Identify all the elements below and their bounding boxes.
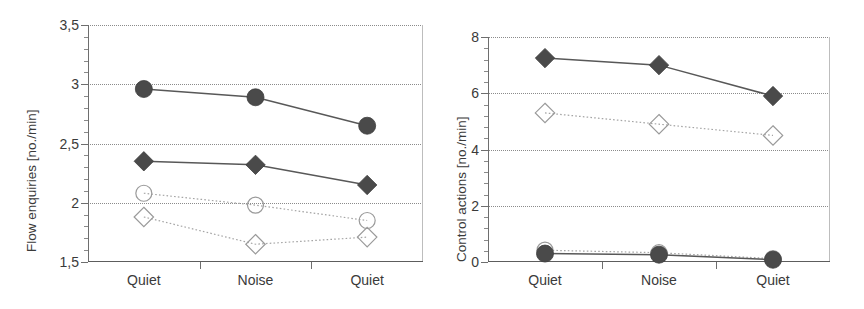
x-category-label: Quiet bbox=[528, 272, 561, 288]
y-tick bbox=[81, 25, 88, 26]
y-axis-title-control-actions: Control actions [no./min] bbox=[454, 116, 469, 262]
y-tick bbox=[81, 144, 88, 145]
x-tick bbox=[311, 262, 312, 269]
data-point-filled-diamond bbox=[649, 55, 668, 74]
y-tick bbox=[481, 150, 488, 151]
data-point-open-diamond bbox=[357, 227, 376, 246]
y-tick-label: 1,5 bbox=[60, 254, 79, 270]
chart-panel-control-actions: Control actions [no./min] 02468 QuietNoi… bbox=[432, 0, 864, 309]
data-point-filled-diamond bbox=[246, 155, 265, 174]
data-point-filled-circle bbox=[765, 251, 782, 268]
y-axis-title-flow-enquiries: Flow enquiries [no./min] bbox=[24, 109, 39, 252]
y-tick-label: 2 bbox=[471, 198, 479, 214]
y-tick-label: 2 bbox=[71, 195, 79, 211]
y-tick bbox=[481, 206, 488, 207]
y-tick bbox=[481, 262, 488, 263]
y-tick bbox=[81, 203, 88, 204]
data-point-filled-diamond bbox=[763, 86, 782, 105]
plot-area-control-actions: 02468 bbox=[488, 37, 830, 262]
x-tick bbox=[200, 262, 201, 269]
x-category-label: Noise bbox=[641, 272, 677, 288]
x-tick bbox=[602, 262, 603, 269]
series-layer-control-actions bbox=[488, 37, 830, 262]
y-tick-label: 0 bbox=[471, 254, 479, 270]
data-point-filled-circle bbox=[537, 245, 554, 262]
data-point-open-circle bbox=[136, 185, 152, 201]
data-point-filled-circle bbox=[247, 89, 264, 106]
data-point-open-diamond bbox=[763, 126, 782, 145]
data-point-open-diamond bbox=[134, 207, 153, 226]
y-tick bbox=[81, 84, 88, 85]
y-tick-label: 2,5 bbox=[60, 136, 79, 152]
y-tick bbox=[81, 262, 88, 263]
data-point-filled-diamond bbox=[357, 175, 376, 194]
data-point-filled-diamond bbox=[535, 48, 554, 67]
data-point-open-diamond bbox=[246, 235, 265, 254]
x-category-label: Quiet bbox=[127, 272, 160, 288]
y-tick bbox=[481, 93, 488, 94]
data-point-open-circle bbox=[359, 213, 375, 229]
x-category-label: Quiet bbox=[756, 272, 789, 288]
x-category-label: Quiet bbox=[350, 272, 383, 288]
y-tick-label: 6 bbox=[471, 85, 479, 101]
y-tick-label: 3 bbox=[71, 76, 79, 92]
data-point-open-circle bbox=[248, 197, 264, 213]
y-tick-label: 4 bbox=[471, 142, 479, 158]
figure-canvas: Flow enquiries [no./min] 1,522,533,5 Qui… bbox=[0, 0, 864, 309]
data-point-open-diamond bbox=[535, 103, 554, 122]
chart-panel-flow-enquiries: Flow enquiries [no./min] 1,522,533,5 Qui… bbox=[0, 0, 432, 309]
y-tick-label: 3,5 bbox=[60, 17, 79, 33]
data-point-open-diamond bbox=[649, 114, 668, 133]
plot-area-flow-enquiries: 1,522,533,5 bbox=[88, 25, 423, 262]
data-point-filled-circle bbox=[359, 117, 376, 134]
y-tick-label: 8 bbox=[471, 29, 479, 45]
data-point-filled-diamond bbox=[134, 152, 153, 171]
data-point-filled-circle bbox=[135, 80, 152, 97]
series-layer-flow-enquiries bbox=[88, 25, 423, 262]
x-tick bbox=[716, 262, 717, 269]
y-tick bbox=[481, 37, 488, 38]
data-point-filled-circle bbox=[651, 246, 668, 263]
x-category-label: Noise bbox=[238, 272, 274, 288]
